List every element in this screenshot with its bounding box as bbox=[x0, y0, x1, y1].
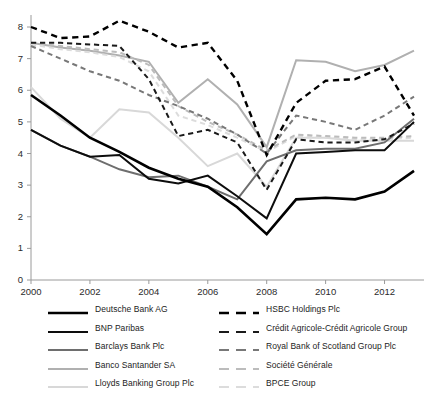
y-axis-tick-label: 0 bbox=[9, 274, 23, 285]
chart-svg bbox=[0, 0, 426, 300]
legend-line-icon bbox=[219, 360, 259, 370]
y-axis-tick-label: 2 bbox=[9, 211, 23, 222]
legend-item[interactable]: Deutsche Bank AG bbox=[48, 300, 215, 319]
legend-line-icon bbox=[48, 378, 88, 388]
legend-line-icon bbox=[48, 341, 88, 351]
legend-item-label: HSBC Holdings Plc bbox=[266, 304, 340, 314]
legend-swatch-icon bbox=[219, 308, 259, 318]
legend-item-label: Royal Bank of Scotland Group Plc bbox=[266, 341, 396, 351]
legend-column-left: Deutsche Bank AGBNP ParibasBarclays Bank… bbox=[0, 300, 215, 399]
legend-line-icon bbox=[48, 304, 88, 314]
legend-item[interactable]: Société Générale bbox=[219, 356, 426, 375]
plot-area: 0123456782000200220042006200820102012 bbox=[0, 0, 426, 300]
legend-item[interactable]: Barclays Bank Plc bbox=[48, 337, 215, 356]
x-axis-tick-label: 2008 bbox=[250, 286, 284, 297]
y-axis-tick-label: 8 bbox=[9, 21, 23, 32]
legend-swatch-icon bbox=[48, 364, 88, 374]
legend-column-right: HSBC Holdings PlcCrédit Agricole-Crédit … bbox=[215, 300, 426, 399]
x-axis-tick-label: 2002 bbox=[73, 286, 107, 297]
legend-item-label: Société Générale bbox=[266, 360, 332, 370]
legend-swatch-icon bbox=[48, 382, 88, 392]
y-axis-tick-label: 3 bbox=[9, 179, 23, 190]
y-axis-tick-label: 1 bbox=[9, 242, 23, 253]
x-axis-tick-label: 2012 bbox=[368, 286, 402, 297]
chart-legend: Deutsche Bank AGBNP ParibasBarclays Bank… bbox=[0, 300, 426, 399]
x-axis-tick-label: 2000 bbox=[14, 286, 48, 297]
y-axis-tick-label: 6 bbox=[9, 84, 23, 95]
legend-item-label: Deutsche Bank AG bbox=[95, 304, 168, 314]
legend-item-label: BPCE Group bbox=[266, 378, 316, 388]
legend-line-icon bbox=[48, 360, 88, 370]
legend-item[interactable]: Crédit Agricole-Crédit Agricole Group bbox=[219, 319, 426, 338]
legend-item-label: Lloyds Banking Group Plc bbox=[95, 378, 194, 388]
legend-swatch-icon bbox=[48, 327, 88, 337]
legend-item[interactable]: Lloyds Banking Group Plc bbox=[48, 374, 215, 393]
legend-swatch-icon bbox=[219, 345, 259, 355]
x-axis-tick-label: 2006 bbox=[191, 286, 225, 297]
legend-item[interactable]: Banco Santander SA bbox=[48, 356, 215, 375]
legend-line-icon bbox=[219, 341, 259, 351]
x-axis-tick-label: 2004 bbox=[132, 286, 166, 297]
legend-item[interactable]: HSBC Holdings Plc bbox=[219, 300, 426, 319]
legend-item[interactable]: BNP Paribas bbox=[48, 319, 215, 338]
series-line bbox=[31, 95, 414, 234]
legend-line-icon bbox=[219, 378, 259, 388]
y-axis-tick-label: 4 bbox=[9, 148, 23, 159]
chart-container: 0123456782000200220042006200820102012 De… bbox=[0, 0, 426, 399]
legend-swatch-icon bbox=[219, 364, 259, 374]
legend-line-icon bbox=[48, 323, 88, 333]
legend-swatch-icon bbox=[48, 345, 88, 355]
legend-item[interactable]: Royal Bank of Scotland Group Plc bbox=[219, 337, 426, 356]
series-line bbox=[31, 43, 414, 190]
series-line bbox=[31, 21, 414, 155]
series-line bbox=[31, 43, 414, 147]
legend-line-icon bbox=[219, 304, 259, 314]
legend-item-label: BNP Paribas bbox=[95, 323, 144, 333]
legend-item-label: Barclays Bank Plc bbox=[95, 341, 164, 351]
y-axis-tick-label: 5 bbox=[9, 116, 23, 127]
legend-swatch-icon bbox=[48, 308, 88, 318]
legend-item-label: Crédit Agricole-Crédit Agricole Group bbox=[266, 323, 407, 333]
series-line bbox=[31, 43, 414, 151]
legend-swatch-icon bbox=[219, 327, 259, 337]
x-axis-tick-label: 2010 bbox=[309, 286, 343, 297]
y-axis-tick-label: 7 bbox=[9, 53, 23, 64]
legend-item-label: Banco Santander SA bbox=[95, 360, 175, 370]
legend-item[interactable]: BPCE Group bbox=[219, 374, 426, 393]
legend-line-icon bbox=[219, 323, 259, 333]
legend-swatch-icon bbox=[219, 382, 259, 392]
